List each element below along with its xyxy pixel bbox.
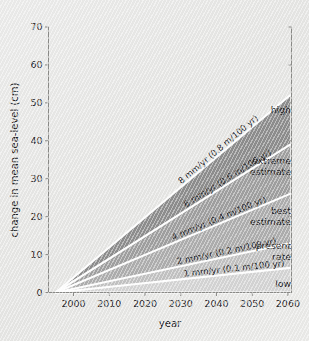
y-tick-label: 10 xyxy=(30,249,42,260)
sea-level-rise-chart: 8 mm/yr (0.8 m/100 yr) 6 mm/yr (0.6 m/10… xyxy=(0,0,309,341)
annotation-present: present xyxy=(256,240,292,251)
annotation-high: high xyxy=(271,104,291,115)
x-tick-label: 2010 xyxy=(97,298,121,309)
y-tick-label: 50 xyxy=(30,97,42,108)
chart-canvas: 8 mm/yr (0.8 m/100 yr) 6 mm/yr (0.6 m/10… xyxy=(0,0,309,341)
y-tick-label: 60 xyxy=(30,59,42,70)
y-tick-label: 40 xyxy=(30,135,42,146)
y-tick-label: 30 xyxy=(30,173,42,184)
x-tick-label: 2060 xyxy=(276,298,300,309)
annotation-best-estimate: estimate xyxy=(250,216,291,227)
x-axis-ticks: 2000201020202030204020502060 xyxy=(61,293,300,309)
x-tick-label: 2050 xyxy=(240,298,264,309)
x-axis-title: year xyxy=(159,318,182,329)
annotation-extreme-estimate: estimate xyxy=(250,166,291,177)
annotation-low: low xyxy=(275,278,291,289)
annotation-present-rate: rate xyxy=(272,251,291,262)
x-tick-label: 2000 xyxy=(61,298,85,309)
y-tick-label: 20 xyxy=(30,211,42,222)
annotation-extreme: extreme xyxy=(252,155,291,166)
y-tick-label: 70 xyxy=(30,21,42,32)
y-axis-title: change in mean sea-level (cm) xyxy=(9,82,20,237)
x-tick-label: 2040 xyxy=(204,298,228,309)
annotation-best: best xyxy=(271,205,291,216)
x-tick-label: 2020 xyxy=(133,298,157,309)
x-tick-label: 2030 xyxy=(169,298,193,309)
y-tick-label: 0 xyxy=(36,287,42,298)
